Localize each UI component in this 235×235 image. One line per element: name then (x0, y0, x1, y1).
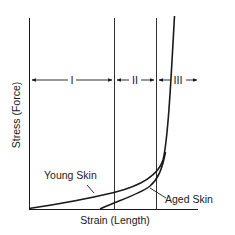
region-i-arrow: I (32, 74, 112, 86)
region-ii-label: II (132, 74, 138, 86)
aged-skin-leader (150, 188, 166, 198)
x-axis-label: Strain (Length) (80, 214, 149, 226)
young-skin-label: Young Skin (44, 169, 97, 181)
y-axis-label: Stress (Force) (10, 82, 22, 149)
region-ii-arrow: II (117, 74, 154, 86)
aged-skin-curve (100, 152, 166, 209)
region-i-label: I (70, 74, 73, 86)
stress-strain-diagram: I II III Young Skin Aged Skin Strain (Le… (0, 0, 235, 235)
region-iii-label: III (173, 74, 182, 86)
young-skin-leader (87, 185, 94, 193)
region-iii-arrow: III (159, 74, 197, 86)
aged-skin-label: Aged Skin (165, 193, 213, 205)
